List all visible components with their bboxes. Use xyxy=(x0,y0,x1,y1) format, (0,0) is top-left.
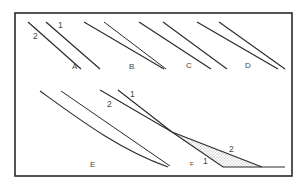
line-label-2-bottom: 2 xyxy=(229,144,234,154)
line-1 xyxy=(104,22,166,69)
comparison-diagram: 1 2 A B C D E 1 2 2 1 F xyxy=(0,0,303,187)
line-2 xyxy=(100,90,262,167)
panel-label-a: A xyxy=(72,62,78,71)
panel-d: D xyxy=(197,22,285,70)
line-label-2-top: 2 xyxy=(107,99,112,109)
line-label-2: 2 xyxy=(33,31,38,41)
panel-e: E xyxy=(40,91,170,169)
panel-c: C xyxy=(139,22,227,70)
line-label-1-top: 1 xyxy=(130,89,135,99)
panel-f: 1 2 2 1 F xyxy=(100,89,285,167)
panel-a: 1 2 A xyxy=(28,20,100,71)
line-1 xyxy=(118,90,285,167)
panel-label-f: F xyxy=(190,161,194,167)
straight-line xyxy=(61,91,170,166)
line-label-1: 1 xyxy=(58,20,63,30)
panel-b: B xyxy=(84,22,166,71)
line-2 xyxy=(197,22,278,69)
line-2 xyxy=(84,22,164,69)
figure-frame xyxy=(15,13,292,176)
line-2 xyxy=(139,22,211,69)
panel-label-d: D xyxy=(245,61,251,70)
panel-label-e: E xyxy=(90,160,95,169)
panel-label-b: B xyxy=(129,62,134,71)
panel-label-c: C xyxy=(186,61,192,70)
line-1 xyxy=(219,22,285,69)
line-label-1-bottom: 1 xyxy=(203,156,208,166)
line-1 xyxy=(163,22,227,69)
curve-line xyxy=(40,91,168,167)
